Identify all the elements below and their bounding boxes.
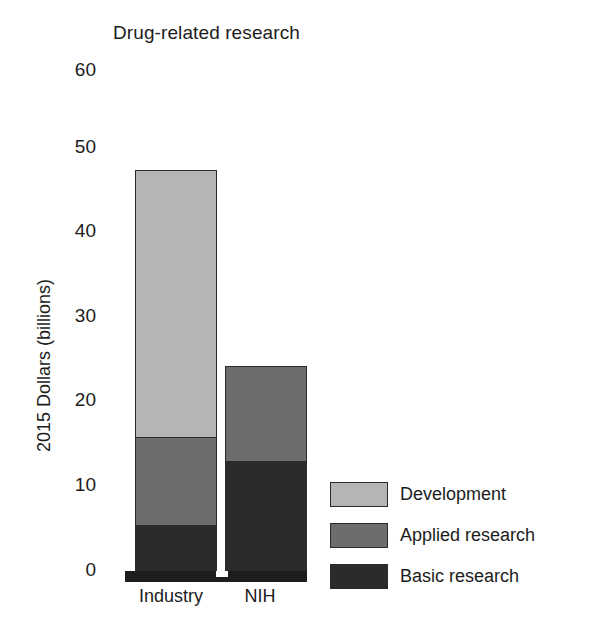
bar-industry [135, 170, 217, 578]
x-tick-label-nih: NIH [222, 586, 298, 607]
drug-related-research-chart: Drug-related research 2015 Dollars (bill… [0, 0, 593, 633]
plot-area [125, 60, 315, 578]
legend-item-basic-research: Basic research [330, 560, 580, 601]
legend-swatch-basic-research-icon [330, 564, 388, 589]
legend-label-development: Development [400, 482, 506, 507]
legend-label-basic-research: Basic research [400, 564, 519, 589]
legend-item-development: Development [330, 478, 580, 519]
legend-swatch-applied-research-icon [330, 523, 388, 548]
legend: Development Applied research Basic resea… [330, 478, 580, 601]
y-tick-0: 0 [50, 560, 96, 579]
bar-industry-segment-applied-research [136, 437, 216, 525]
legend-item-applied-research: Applied research [330, 519, 580, 560]
y-tick-10: 10 [50, 475, 96, 494]
bar-nih-segment-applied-research [226, 367, 306, 461]
legend-label-applied-research: Applied research [400, 523, 535, 548]
x-tick-label-industry: Industry [128, 586, 214, 607]
y-axis-title: 2015 Dollars (billions) [34, 236, 55, 496]
y-tick-40: 40 [50, 221, 96, 240]
y-tick-30: 30 [50, 306, 96, 325]
bar-nih [225, 366, 307, 578]
y-tick-60: 60 [50, 60, 96, 79]
y-tick-50: 50 [50, 137, 96, 156]
chart-title: Drug-related research [113, 22, 300, 44]
bar-nih-segment-basic-research [226, 461, 306, 578]
legend-swatch-development-icon [330, 482, 388, 507]
y-tick-20: 20 [50, 390, 96, 409]
bar-industry-segment-development [136, 171, 216, 437]
x-axis-baseline-gap [216, 571, 228, 577]
